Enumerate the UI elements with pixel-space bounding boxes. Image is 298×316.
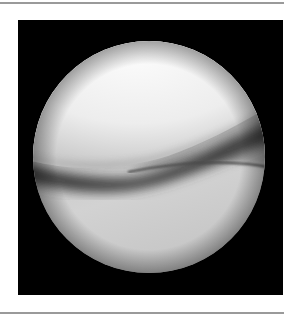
bottom-rule [0,312,284,314]
scope-view [18,20,283,295]
arthroscopic-image [18,20,283,295]
vignette [33,41,265,273]
top-rule [0,2,284,4]
image-frame [18,20,283,295]
